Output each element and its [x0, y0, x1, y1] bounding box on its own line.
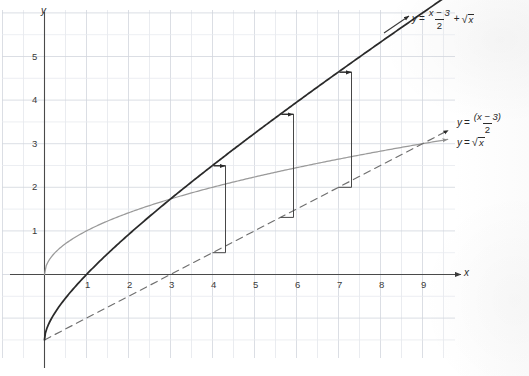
- line-eq-equals: =: [464, 118, 470, 128]
- x-tick-4: 4: [211, 280, 216, 290]
- y-tick-3: 3: [32, 139, 37, 149]
- sum-eq-denominator: 2: [435, 19, 444, 31]
- sqrt-eq-y: y: [457, 138, 462, 148]
- sqrt-eq-radicand: x: [478, 137, 485, 148]
- x-tick-5: 5: [253, 280, 258, 290]
- sum-curve-equation: y = x − 3 2 + √ x: [412, 8, 474, 30]
- y-tick-4: 4: [32, 95, 37, 105]
- line-eq-numerator: (x − 3): [474, 111, 501, 122]
- x-tick-2: 2: [127, 280, 132, 290]
- x-axis-label: x: [464, 268, 469, 278]
- axis-lines: [10, 12, 461, 368]
- sum-eq-radicand: x: [468, 14, 475, 25]
- graph-page: y x 1 2 3 4 5 6 7 8 9 1 2 3 4 5 y = x − …: [0, 0, 529, 376]
- line-eq-denominator: 2: [483, 123, 492, 135]
- y-axis-label: y: [41, 6, 46, 16]
- sum-eq-numerator: x − 3: [429, 7, 450, 18]
- sum-eq-plus: +: [454, 14, 460, 24]
- sqrt-curve: [45, 139, 448, 274]
- line-eq-fraction: (x − 3) 2: [472, 112, 503, 134]
- y-tick-1: 1: [32, 226, 37, 236]
- line-eq-y: y: [457, 118, 462, 128]
- sum-eq-radical: √ x: [462, 14, 475, 25]
- x-tick-9: 9: [421, 280, 426, 290]
- x-tick-7: 7: [337, 280, 342, 290]
- y-tick-5: 5: [32, 52, 37, 62]
- line-curve-equation: y = (x − 3) 2: [457, 112, 503, 134]
- coordinate-plot: [0, 0, 529, 376]
- linear-curve: [45, 130, 449, 340]
- sqrt-curve-equation: y = √ x: [457, 137, 485, 148]
- sum-eq-fraction: x − 3 2: [427, 8, 452, 30]
- sqrt-eq-equals: =: [464, 138, 470, 148]
- sum-eq-equals: =: [419, 14, 425, 24]
- x-tick-6: 6: [295, 280, 300, 290]
- grid-lines: [2, 10, 455, 358]
- sum-eq-y: y: [412, 14, 417, 24]
- x-tick-1: 1: [85, 280, 90, 290]
- y-tick-2: 2: [32, 182, 37, 192]
- x-tick-3: 3: [169, 280, 174, 290]
- sum-curve: [45, 0, 446, 340]
- sqrt-eq-radical: √ x: [472, 137, 485, 148]
- x-tick-8: 8: [379, 280, 384, 290]
- curve-group: [45, 0, 449, 340]
